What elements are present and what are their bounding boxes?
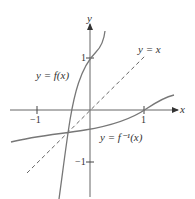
x-tick-label-neg1: −1: [30, 114, 41, 125]
x-axis-label: x: [179, 103, 185, 115]
x-tick-label-1: 1: [141, 114, 146, 125]
function-inverse-diagram: y x −1 1 1 −1 y = f(x) y = x y = f⁻¹(x): [0, 0, 195, 199]
f-curve-label: y = f(x): [35, 69, 69, 82]
y-tick-label-neg1: −1: [75, 156, 86, 167]
y-axis-label: y: [86, 12, 92, 24]
y-tick-label-1: 1: [81, 52, 86, 63]
f-inverse-curve-label: y = f⁻¹(x): [99, 131, 143, 144]
identity-line-label: y = x: [137, 43, 161, 55]
